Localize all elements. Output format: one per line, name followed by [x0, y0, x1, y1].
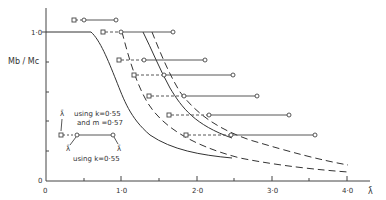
x-tick-4: 4·0: [342, 187, 353, 195]
solid-curve-2: [143, 32, 232, 138]
legend: λ̄ using k=0·55 and m =0·57 λ̄ λ̄ using …: [59, 109, 123, 163]
legend-line-1: using k=0·55: [74, 110, 121, 118]
legend-line-3: using k=0·55: [73, 155, 120, 163]
legend-lambda-top: λ̄: [60, 109, 64, 118]
legend-lambda-left: λ̄: [66, 144, 70, 153]
x-axis-label: λ̄: [368, 186, 373, 196]
dashed-curve-1: [122, 32, 348, 172]
y-tick-0: 0: [38, 177, 42, 185]
x-tick-2: 2·0: [192, 187, 203, 195]
legend-line-2: and m =0·57: [77, 119, 123, 127]
x-tick-0: 0: [43, 187, 47, 195]
x-tick-1: 1·0: [116, 187, 127, 195]
x-tick-3: 3·0: [267, 187, 278, 195]
chart: Mb / Mc 1·0 0 0 1·0 2·0 3·0 4·0 λ̄: [0, 0, 386, 200]
curves: [46, 32, 348, 172]
legend-lambda-right: λ̄: [117, 144, 121, 153]
y-tick-1: 1·0: [31, 29, 42, 37]
dashed-curve-2: [152, 32, 348, 165]
y-axis-label: Mb / Mc: [8, 57, 39, 66]
